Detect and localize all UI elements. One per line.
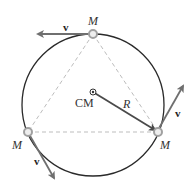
mass-right (154, 128, 162, 136)
velocity-label-left: v (34, 155, 40, 167)
cm-label: CM (75, 96, 94, 110)
mass-top (89, 30, 97, 38)
mass-label-right: M (159, 138, 171, 152)
mass-left (24, 128, 32, 136)
dashed-triangle (28, 34, 158, 132)
mass-label-top: M (87, 14, 99, 28)
mass-label-left: M (11, 138, 23, 152)
cm-marker (90, 89, 96, 95)
three-body-diagram: CM R v v v M M M (0, 0, 195, 189)
velocity-label-right: v (175, 107, 181, 119)
velocity-arrow-left (29, 134, 54, 178)
radius-label: R (122, 97, 131, 111)
velocity-label-top: v (63, 21, 69, 33)
